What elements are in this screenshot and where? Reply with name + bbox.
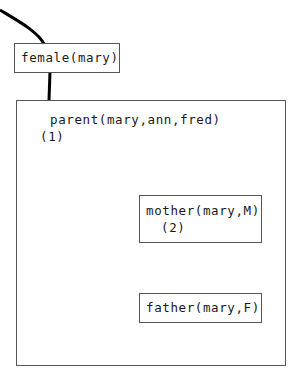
edge-female-to-parent	[49, 72, 50, 100]
node-parent-label: parent(mary,ann,fred)	[50, 112, 221, 127]
edge-top-to-female	[0, 10, 44, 44]
node-female-label: female(mary)	[21, 50, 119, 65]
node-father-label: father(mary,F)	[146, 300, 260, 315]
node-father: father(mary,F)	[139, 293, 262, 323]
node-parent-marker: (1)	[40, 129, 64, 144]
node-mother: mother(mary,M) (2)	[139, 195, 262, 243]
diagram-canvas: female(mary) parent(mary,ann,fred) (1) m…	[0, 0, 296, 382]
node-mother-label: mother(mary,M)	[146, 203, 260, 218]
node-female: female(mary)	[14, 43, 120, 73]
node-mother-marker: (2)	[161, 220, 185, 235]
